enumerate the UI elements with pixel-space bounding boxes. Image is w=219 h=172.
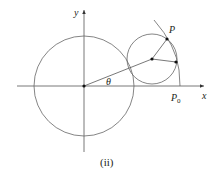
radius-to-point [152, 59, 176, 62]
y-axis-label: y [73, 7, 79, 18]
second-point [174, 60, 177, 63]
x-axis-label: x [201, 90, 207, 101]
radius-to-p [152, 39, 167, 59]
theta-label: θ [106, 76, 111, 87]
origin-point [82, 84, 85, 87]
point-p [165, 37, 168, 40]
p-label: P [168, 24, 175, 35]
center-point [150, 57, 153, 60]
diagram-canvas: y x θ P P0 (ii) [0, 0, 219, 172]
figure-caption: (ii) [100, 156, 114, 169]
p0-label: P0 [170, 92, 181, 105]
